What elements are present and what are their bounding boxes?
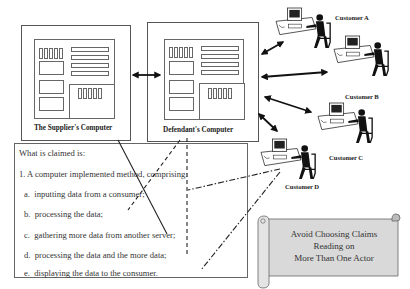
arrow-customer-c [265, 97, 311, 112]
banner-text: Avoid Choosing Claims Reading on More Th… [270, 229, 398, 274]
customer-b-label: Customer B [345, 93, 379, 100]
arrow-customer-a [262, 42, 283, 54]
connector-supplier-step-c [118, 140, 167, 234]
customer-c-label: Customer C [329, 154, 363, 161]
customer-c-figure [318, 103, 372, 143]
arrow-customer-d [259, 114, 277, 131]
customer-a-figure [276, 8, 330, 48]
banner-line-1: Avoid Choosing Claims [270, 229, 398, 240]
customer-a-label: Customer A [335, 14, 369, 21]
connector-customer-d-step-a [188, 169, 280, 190]
customer-d-figure [261, 139, 315, 179]
banner-line-2: Reading on [270, 241, 398, 252]
arrow-customer-b [262, 72, 327, 77]
customer-b-figure [334, 36, 388, 76]
customer-d-label: Customer D [285, 183, 319, 190]
banner-line-3: More Than One Actor [270, 253, 398, 264]
